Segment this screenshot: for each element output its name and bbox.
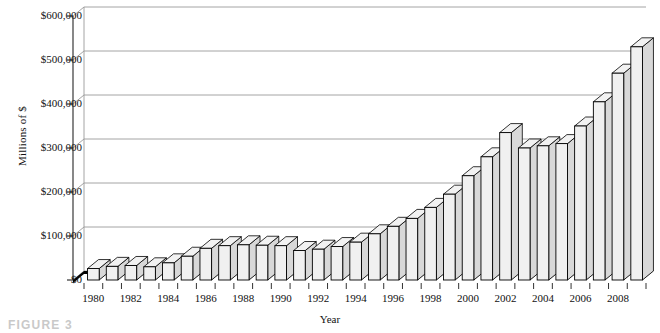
x-tick-label: 2004 [523,293,563,304]
x-tick-label: 2002 [486,293,526,304]
bar-front [125,265,137,280]
bar-front [556,144,568,280]
x-tick-label: 1988 [223,293,263,304]
bar-front [387,226,399,280]
bar-front [425,207,437,280]
bar-front [219,246,231,280]
bar-front [481,157,493,280]
bar-2009 [631,38,654,280]
y-tick-label: $200,000 [20,186,82,197]
bar-front [350,242,362,280]
x-tick-label: 2008 [598,293,638,304]
bar-front [631,47,643,280]
bar-front [275,246,287,280]
bar-front [575,126,587,280]
x-tick-label: 1986 [186,293,226,304]
x-tick-label: 2006 [560,293,600,304]
bar-front [518,148,530,280]
y-tick-label: $500,000 [20,54,82,65]
gridline [73,51,646,60]
x-tick-label: 1980 [73,293,113,304]
bar-front [500,133,512,280]
bar-front [331,247,343,280]
bar-front [537,146,549,280]
bar-side [642,38,653,280]
x-tick-label: 1984 [148,293,188,304]
bar-front [294,251,306,280]
gridline [73,95,646,104]
x-tick-label: 1996 [373,293,413,304]
gridline [73,7,646,16]
bar-front [144,267,156,280]
x-tick-label: 1982 [111,293,151,304]
x-tick-label: 2000 [448,293,488,304]
bar-front [443,194,455,280]
bar-front [88,269,100,280]
bar-front [162,263,174,280]
bar-front [312,249,324,280]
x-tick-label: 1998 [411,293,451,304]
bar-front [181,256,193,280]
bar-front [369,234,381,280]
x-tick-label: 1994 [336,293,376,304]
bar-front [406,218,418,280]
bar-front [612,73,624,280]
plot-area [0,0,660,333]
y-tick-label: $0 [20,274,82,285]
y-tick-label: $100,000 [20,230,82,241]
y-tick-label: $400,000 [20,98,82,109]
figure-3-chart: Millions of $ Year FIGURE 3 $600,000$500… [0,0,660,333]
x-tick-label: 1990 [261,293,301,304]
bar-front [237,245,249,280]
y-tick-label: $600,000 [20,10,82,21]
bar-front [106,266,118,280]
y-tick-label: $300,000 [20,142,82,153]
bar-front [200,248,212,280]
bar-front [462,176,474,280]
x-tick-label: 1992 [298,293,338,304]
bar-front [256,245,268,280]
bar-front [593,102,605,280]
